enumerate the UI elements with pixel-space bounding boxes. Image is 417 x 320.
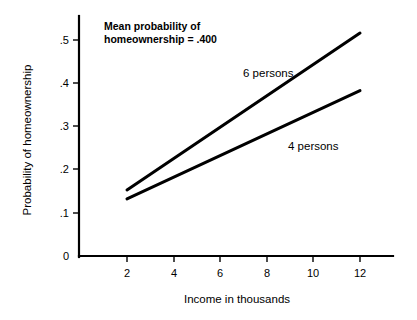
y-tick-label-5: .5: [60, 34, 69, 46]
chart-plot-area: .5 .4 .3 .2 .1 0 2 4 6 8 10 12 6 persons…: [0, 0, 417, 320]
x-tick-label-2: 2: [124, 267, 130, 279]
x-tick-label-12: 12: [354, 267, 366, 279]
y-tick-label-3: .3: [60, 120, 69, 132]
chart-figure: .5 .4 .3 .2 .1 0 2 4 6 8 10 12 6 persons…: [0, 0, 417, 320]
series-label-4-persons: 4 persons: [288, 140, 339, 152]
series-label-6-persons: 6 persons: [243, 67, 294, 79]
annotation-note-line-1: Mean probability of: [104, 20, 201, 32]
y-tick-label-0: 0: [63, 250, 69, 262]
x-tick-label-8: 8: [264, 267, 270, 279]
y-tick-label-1: .1: [60, 207, 69, 219]
x-tick-label-4: 4: [171, 267, 177, 279]
y-tick-label-4: .4: [60, 77, 69, 89]
series-line-6-persons: [127, 33, 360, 190]
x-axis-title: Income in thousands: [184, 293, 290, 305]
x-tick-label-6: 6: [217, 267, 223, 279]
x-tick-label-10: 10: [307, 267, 319, 279]
annotation-note-line-2: homeownership = .400: [104, 33, 217, 45]
y-tick-label-2: .2: [60, 163, 69, 175]
y-axis-title: Probability of homeownership: [21, 65, 33, 216]
